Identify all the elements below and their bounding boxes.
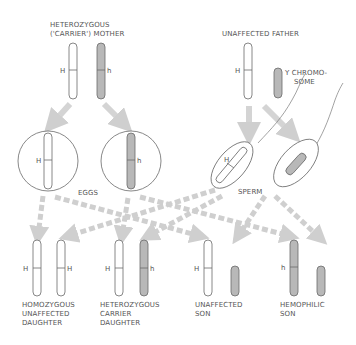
mother-x-chromosome-affected <box>97 43 105 99</box>
eggs-label: EGGS <box>78 189 99 197</box>
inheritance-diagram: HETEROZYGOUS ('CARRIER') MOTHER H h UNAF… <box>0 0 356 345</box>
father-label: UNAFFECTED FATHER <box>222 30 299 38</box>
daughter-1-label-3: DAUGHTER <box>22 319 62 327</box>
father-y-chromosome <box>274 68 282 98</box>
son-1-label-1: UNAFFECTED <box>195 301 243 309</box>
daughter-2-label-1: HETEROZYGOUS <box>100 301 160 309</box>
daughter-2-allele-1: H <box>105 265 110 273</box>
dashed-arrows <box>38 190 320 238</box>
son-1-label-2: SON <box>195 310 211 318</box>
daughter-2-label-3: DAUGHTER <box>100 319 140 327</box>
solid-arrows <box>52 104 292 134</box>
mother-label-line1: HETEROZYGOUS <box>50 21 110 29</box>
father-x-chromosome <box>244 43 252 99</box>
mother-allele-h: h <box>107 67 111 75</box>
arrow-mother-egg1 <box>52 104 70 124</box>
egg-1-allele: H <box>36 157 41 165</box>
son-2-allele: h <box>281 264 285 272</box>
son-2-label-1: HEMOPHILIC <box>280 301 325 309</box>
mother-x-chromosome-normal <box>69 43 77 99</box>
father-group: UNAFFECTED FATHER H Y CHROMO- SOME <box>222 30 328 99</box>
daughter-1-allele-2: H <box>67 265 72 273</box>
sperm-label: SPERM <box>238 188 263 196</box>
offspring-daughter-2: H h HETEROZYGOUS CARRIER DAUGHTER <box>100 240 160 327</box>
daughter-1-label-1: HOMOZYGOUS <box>22 301 75 309</box>
arrow-father-sperm2 <box>264 106 292 134</box>
sperm-2-tail <box>316 83 343 145</box>
father-allele-H: H <box>235 67 240 75</box>
eggs-group: H h EGGS <box>18 131 161 197</box>
y-chromosome-label-line1: Y CHROMO- <box>284 69 328 77</box>
offspring-daughter-1: H H HOMOZYGOUS UNAFFECTED DAUGHTER <box>22 240 75 327</box>
mother-allele-H: H <box>60 67 65 75</box>
son-2-label-2: SON <box>280 310 296 318</box>
mother-label-line2: ('CARRIER') MOTHER <box>50 30 125 38</box>
daughter-1-allele-1: H <box>23 265 28 273</box>
daughter-1-label-2: UNAFFECTED <box>22 310 70 318</box>
offspring-son-1: H UNAFFECTED SON <box>194 240 243 318</box>
daughter-2-allele-2: h <box>150 265 154 273</box>
sperm-1-allele: H <box>224 156 229 164</box>
arrow-mother-egg2 <box>104 104 124 124</box>
offspring-son-2: h HEMOPHILIC SON <box>280 240 325 318</box>
mother-group: HETEROZYGOUS ('CARRIER') MOTHER H h <box>50 21 125 99</box>
sperm-group: H SPERM <box>203 74 343 196</box>
arrow-egg1-daughter1 <box>38 196 43 236</box>
egg-2-allele: h <box>137 157 141 165</box>
arrow-sperm2-son1 <box>238 196 265 236</box>
daughter-2-label-2: CARRIER <box>100 310 131 318</box>
son-1-allele: H <box>194 265 199 273</box>
y-chromosome-label-line2: SOME <box>294 78 315 86</box>
